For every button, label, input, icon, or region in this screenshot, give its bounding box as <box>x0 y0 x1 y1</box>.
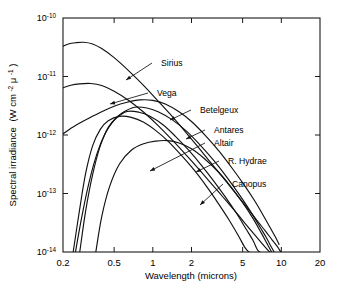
series-label: Vega <box>157 88 177 98</box>
spectral-irradiance-chart: SiriusVegaBetelgeuxAntaresAltairR. Hydra… <box>0 0 338 291</box>
figure-container: SiriusVegaBetelgeuxAntaresAltairR. Hydra… <box>0 0 338 291</box>
series-label: Canopus <box>232 179 266 189</box>
x-tick-label: 1 <box>150 257 155 268</box>
series-label: Sirius <box>161 58 183 68</box>
x-axis-title: Wavelength (microns) <box>145 270 237 281</box>
x-tick-label: 2 <box>189 257 194 268</box>
series-label: Antares <box>214 125 244 135</box>
x-tick-label: 0.2 <box>56 257 69 268</box>
series-label: R. Hydrae <box>228 156 267 166</box>
series-label: Betelgeux <box>200 105 239 115</box>
x-tick-label: 20 <box>315 257 326 268</box>
x-tick-label: 10 <box>276 257 287 268</box>
x-tick-label: 5 <box>240 257 245 268</box>
x-axis-title-group: Wavelength (microns) <box>145 270 237 281</box>
series-label: Altair <box>214 138 234 148</box>
x-tick-label: 0.5 <box>108 257 121 268</box>
